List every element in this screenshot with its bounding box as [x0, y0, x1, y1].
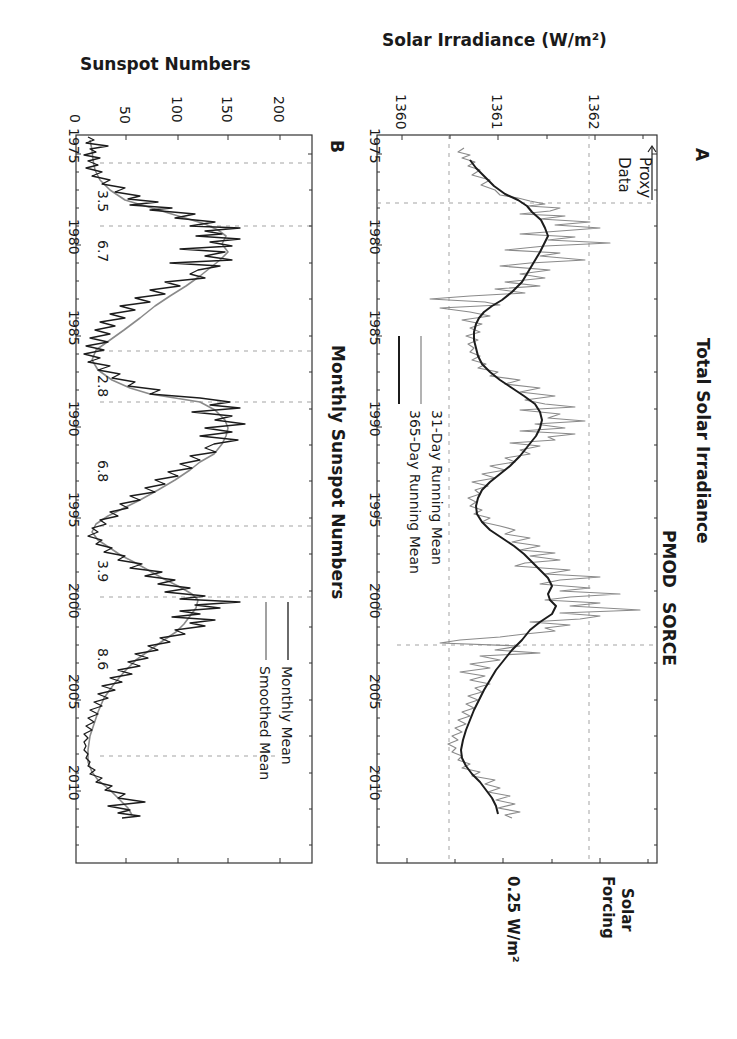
panel-a-xtick: 2010: [367, 765, 383, 801]
panel-a-xtick: 1995: [367, 492, 383, 528]
panel-b-xtick: 2005: [66, 674, 82, 710]
legend-smoothed-label: Smoothed Mean: [257, 666, 273, 780]
panel-b-xtick: 2000: [66, 583, 82, 619]
panel-b-ytick-200: 200: [271, 96, 287, 123]
panel-b-xtick: 1985: [66, 310, 82, 346]
cycle-annotation: 6.7: [95, 240, 111, 262]
panel-b-letter: B: [327, 140, 347, 153]
figure: A Total Solar Irradiance PMOD SORCE Prox…: [0, 0, 737, 1039]
solar-forcing-line2: Forcing: [599, 876, 617, 939]
panel-a-ylabel: Solar Irradiance (W/m²): [382, 30, 607, 50]
legend-31day-label: 31-Day Running Mean: [429, 410, 445, 565]
pmod-label: PMOD: [659, 530, 679, 588]
cycle-annotation: 2.8: [95, 375, 111, 397]
panel-a-xtick: 1990: [367, 401, 383, 437]
data-label: Data: [615, 157, 633, 193]
cycle-annotation: 3.9: [95, 560, 111, 582]
cycle-annotation: 8.6: [95, 648, 111, 670]
solar-forcing-value: 0.25 W/m²: [504, 876, 522, 962]
solar-forcing-line1: Solar: [618, 888, 636, 932]
panel-a-ytick-1361: 1361: [489, 94, 505, 130]
panel-b-xtick: 1980: [66, 219, 82, 255]
cycle-annotation: 6.8: [95, 460, 111, 482]
panel-b-xtick: 2010: [66, 765, 82, 801]
panel-a-letter: A: [692, 148, 712, 162]
legend-monthly-label: Monthly Mean: [279, 666, 295, 765]
sorce-label: SORCE: [659, 602, 679, 666]
panel-b-ytick-50: 50: [117, 106, 133, 124]
panel-b-ytick-100: 100: [169, 96, 185, 123]
panel-a-xtick: 2005: [367, 674, 383, 710]
tsi-365day-line: [461, 160, 556, 814]
panel-a-xtick: 1985: [367, 310, 383, 346]
chart-svg: A Total Solar Irradiance PMOD SORCE Prox…: [0, 0, 737, 1039]
panel-b-ylabel: Sunspot Numbers: [80, 54, 251, 74]
panel-b-legend: Monthly Mean Smoothed Mean: [257, 602, 295, 780]
cycle-annotation: 3.5: [95, 190, 111, 212]
panel-b-xtick: 1975: [66, 128, 82, 164]
panel-a-ytick-1360: 1360: [393, 94, 409, 130]
proxy-label: Proxy: [636, 157, 654, 198]
panel-a-ylabel-text: Solar Irradiance (W/m²): [382, 30, 607, 50]
panel-a-legend: 31-Day Running Mean 365-Day Running Mean: [399, 336, 445, 574]
panel-b-ytick-150: 150: [219, 96, 235, 123]
panel-a-xtick: 1975: [367, 128, 383, 164]
panel-b-value-ticks: [126, 135, 280, 863]
legend-365day-label: 365-Day Running Mean: [407, 410, 423, 574]
panel-a-xtick: 2000: [367, 583, 383, 619]
panel-b-ytick-0: 0: [67, 114, 83, 123]
tsi-31day-line: [430, 148, 640, 818]
panel-a-title: Total Solar Irradiance: [693, 338, 713, 544]
panel-b-xtick: 1990: [66, 401, 82, 437]
panel-b-title: Monthly Sunspot Numbers: [328, 345, 348, 599]
panel-a-ytick-1362: 1362: [586, 94, 602, 130]
panel-b-xtick: 1995: [66, 492, 82, 528]
panel-a-xtick: 1980: [367, 219, 383, 255]
